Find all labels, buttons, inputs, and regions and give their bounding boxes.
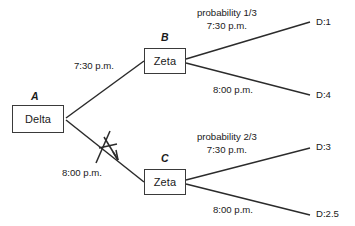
node-box-delta[interactable]: Delta (12, 105, 64, 133)
time-label-lower-first: 7:30 p.m. (197, 144, 257, 157)
time-label-upper-second: 8:00 p.m. (213, 84, 253, 96)
payoff-label-d4: D:4 (316, 89, 331, 100)
edge-label-root-upper: 7:30 p.m. (74, 60, 114, 72)
node-letter-a: A (31, 90, 39, 102)
edge-label-root-lower: 8:00 p.m. (62, 167, 102, 179)
probability-label-lower: probability 2/3 7:30 p.m. (197, 131, 257, 157)
payoff-label-d3: D:3 (316, 141, 331, 152)
node-letter-b: B (161, 31, 169, 43)
node-letter-c: C (161, 152, 169, 164)
probability-value-upper: probability 1/3 (197, 7, 257, 20)
payoff-label-d1: D:1 (316, 16, 331, 27)
probability-value-lower: probability 2/3 (197, 131, 257, 144)
node-box-zeta-lower[interactable]: Zeta (144, 169, 186, 195)
decision-tree-diagram: A B C Delta Zeta Zeta 7:30 p.m. 8:00 p.m… (0, 0, 355, 226)
node-box-zeta-upper[interactable]: Zeta (144, 48, 186, 74)
probability-label-upper: probability 1/3 7:30 p.m. (197, 7, 257, 33)
time-label-lower-second: 8:00 p.m. (213, 204, 253, 216)
time-label-upper-first: 7:30 p.m. (197, 20, 257, 33)
payoff-label-d25: D:2.5 (316, 208, 339, 219)
